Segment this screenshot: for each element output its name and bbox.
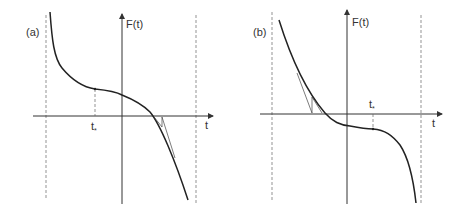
y-axis-label-a: F(t)	[126, 18, 143, 30]
t-star-label-b: t*	[369, 98, 375, 112]
x-axis-label-a: t	[205, 119, 208, 131]
tangent-line-b-2	[312, 97, 322, 113]
panel-b: (b) F(t) t t*	[253, 10, 442, 204]
y-axis-label-b: F(t)	[352, 16, 369, 28]
figure-canvas: (a) F(t) t t* (b) F(t) t t*	[0, 0, 462, 214]
t-star-label-a: t*	[91, 120, 97, 134]
panel-label-a: (a)	[26, 26, 39, 38]
panel-a: (a) F(t) t t*	[26, 12, 213, 204]
t-star-point-a	[94, 88, 96, 90]
t-star-point-b	[372, 128, 374, 130]
x-axis-label-b: t	[432, 117, 435, 129]
curve-a	[50, 12, 188, 200]
panel-label-b: (b)	[253, 26, 266, 38]
